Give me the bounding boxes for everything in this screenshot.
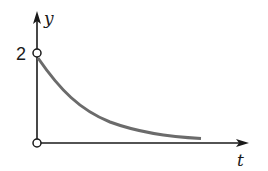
- open-point-y2: [33, 49, 41, 57]
- x-axis-label: t: [237, 150, 244, 170]
- open-point-origin: [33, 139, 41, 147]
- y-axis-label: y: [43, 8, 54, 28]
- chart: y t 2: [0, 0, 268, 171]
- decay-curve: [38, 58, 201, 139]
- y-tick-label-2: 2: [16, 44, 26, 64]
